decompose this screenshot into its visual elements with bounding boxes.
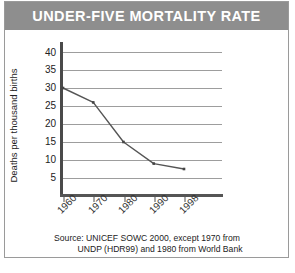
y-tick-label-30: 30 [45, 82, 56, 93]
gridline-25 [63, 106, 222, 107]
gridline-10 [63, 160, 222, 161]
y-tick-label-10: 10 [45, 154, 56, 165]
y-tick-label-15: 15 [45, 136, 56, 147]
x-axis-line [60, 194, 223, 197]
y-tick-label-40: 40 [45, 47, 56, 58]
source-line-1: Source: UNICEF SOWC 2000, except 1970 fr… [8, 233, 286, 244]
source-line-2: UNDP (HDR99) and 1980 from World Bank [8, 244, 286, 255]
gridline-15 [63, 142, 222, 143]
gridline-20 [63, 124, 222, 125]
plot-area [63, 52, 222, 195]
y-tick-label-5: 5 [50, 172, 56, 183]
y-tick-label-25: 25 [45, 100, 56, 111]
gridline-40 [63, 52, 222, 53]
source-note: Source: UNICEF SOWC 2000, except 1970 fr… [8, 233, 286, 255]
page-title: UNDER-FIVE MORTALITY RATE [32, 8, 260, 24]
y-axis-line [60, 42, 63, 197]
gridline-35 [63, 70, 222, 71]
y-tick-label-20: 20 [45, 118, 56, 129]
gridline-5 [63, 178, 222, 179]
gridline-30 [63, 88, 222, 89]
chart-figure: UNDER-FIVE MORTALITY RATE Deaths per tho… [0, 0, 295, 273]
y-tick-label-35: 35 [45, 64, 56, 75]
